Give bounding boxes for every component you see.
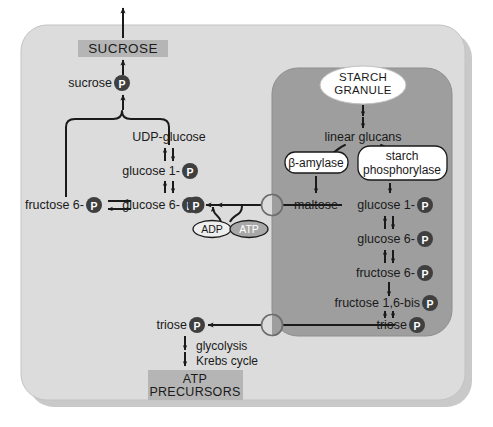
- phosphate-letter: P: [193, 320, 200, 332]
- phosphate-letter: P: [118, 78, 125, 90]
- fructose-16-bisphosphate-label: fructose 1,6-bis: [335, 296, 420, 310]
- starch-granule-line-2: GRANULE: [334, 84, 392, 96]
- starch-phosphorylase-line-2: phosphorylase: [363, 163, 441, 177]
- beta-amylase-label: β-amylase: [288, 156, 344, 170]
- atp-precursors-line-1: ATP: [183, 372, 207, 386]
- maltose-label: maltose: [294, 198, 338, 212]
- adp-label: ADP: [201, 223, 223, 235]
- phosphate-letter: P: [421, 268, 428, 280]
- atp-precursors-line-2: PRECURSORS: [149, 385, 240, 399]
- fructose-6p-chloroplast-label: fructose 6-: [356, 266, 415, 280]
- phosphate-letter: P: [421, 234, 428, 246]
- starch-granule-line-1: STARCH: [339, 71, 387, 83]
- krebs-cycle-label: Krebs cycle: [196, 354, 258, 368]
- triose-p-chloroplast-label: triose: [376, 318, 407, 332]
- phosphate-letter: P: [426, 298, 433, 310]
- udp-glucose-label: UDP-glucose: [132, 130, 206, 144]
- triose-p-cytosol-label: triose: [156, 318, 187, 332]
- glucose-6p-chloroplast-label: glucose 6-: [357, 232, 415, 246]
- sucrose-p-label: sucrose: [68, 76, 112, 90]
- phosphate-letter: P: [186, 166, 193, 178]
- fructose-6p-cytosol-label: fructose 6-: [25, 198, 84, 212]
- glycolysis-label: glycolysis: [196, 339, 247, 353]
- linear-glucans-label: linear glucans: [324, 130, 401, 144]
- phosphate-letter: P: [413, 320, 420, 332]
- glucose-6p-cytosol-label: glucose 6-: [122, 198, 180, 212]
- diagram-canvas: SUCROSE sucrose P UDP-glucose glucose 1-…: [0, 0, 493, 427]
- pathway-diagram-svg: SUCROSE sucrose P UDP-glucose glucose 1-…: [0, 0, 493, 427]
- glucose-1p-chloroplast-label: glucose 1-: [357, 198, 415, 212]
- phosphate-letter: P: [192, 200, 199, 212]
- atp-label: ATP: [239, 223, 259, 235]
- starch-phosphorylase-line-1: starch: [386, 149, 419, 163]
- phosphate-letter: P: [90, 200, 97, 212]
- phosphate-letter: P: [421, 200, 428, 212]
- glucose-1p-cytosol-label: glucose 1-: [122, 164, 180, 178]
- sucrose-box-label: SUCROSE: [88, 41, 158, 56]
